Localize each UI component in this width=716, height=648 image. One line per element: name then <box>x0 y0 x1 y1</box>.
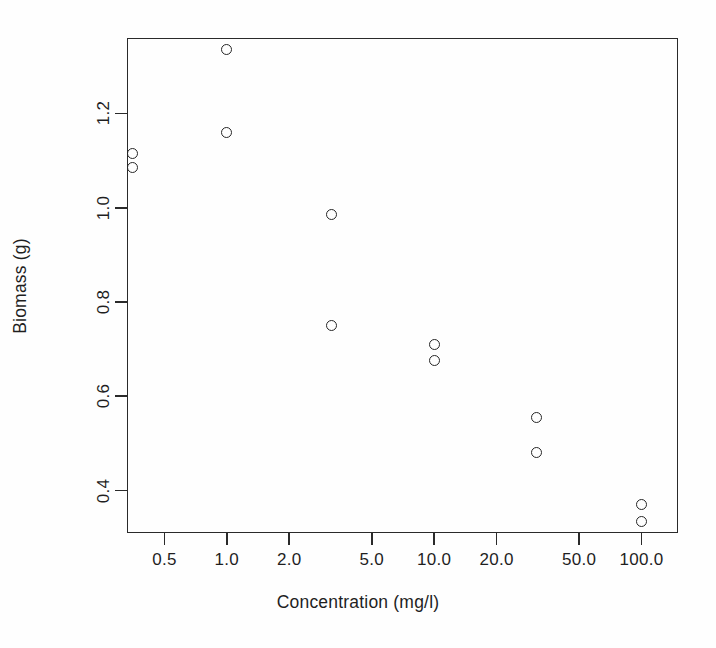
x-tick-label: 0.5 <box>152 550 177 570</box>
scatter-plot-figure: 0.51.02.05.010.020.050.0100.0 0.40.60.81… <box>0 0 716 648</box>
data-point <box>221 44 232 55</box>
data-point <box>127 148 138 159</box>
y-tick-mark <box>115 395 127 397</box>
x-tick-mark <box>496 533 498 545</box>
x-tick-label: 100.0 <box>619 550 663 570</box>
y-tick-mark <box>115 113 127 115</box>
data-point <box>429 339 440 350</box>
x-tick-label: 20.0 <box>479 550 513 570</box>
x-tick-mark <box>641 533 643 545</box>
x-tick-label: 2.0 <box>277 550 302 570</box>
y-tick-label: 1.0 <box>94 195 114 220</box>
data-point <box>429 355 440 366</box>
data-point <box>326 320 337 331</box>
x-tick-label: 5.0 <box>359 550 384 570</box>
y-tick-mark <box>115 490 127 492</box>
x-tick-label: 10.0 <box>417 550 451 570</box>
data-point <box>531 412 542 423</box>
data-point <box>636 516 647 527</box>
data-point <box>636 499 647 510</box>
y-tick-label: 0.4 <box>94 478 114 503</box>
data-point <box>221 127 232 138</box>
x-tick-mark <box>433 533 435 545</box>
y-axis-title: Biomass (g) <box>10 238 31 334</box>
data-point <box>127 162 138 173</box>
x-axis-title: Concentration (mg/l) <box>0 592 716 613</box>
y-tick-label: 0.8 <box>94 290 114 315</box>
x-tick-mark <box>164 533 166 545</box>
y-tick-label: 1.2 <box>94 101 114 126</box>
x-tick-mark <box>288 533 290 545</box>
data-point <box>531 447 542 458</box>
x-tick-mark <box>226 533 228 545</box>
y-tick-label: 0.6 <box>94 384 114 409</box>
x-tick-mark <box>578 533 580 545</box>
x-tick-label: 50.0 <box>562 550 596 570</box>
plot-data-area <box>127 38 678 533</box>
x-tick-mark <box>371 533 373 545</box>
data-point <box>326 209 337 220</box>
y-tick-mark <box>115 207 127 209</box>
y-tick-mark <box>115 301 127 303</box>
x-tick-label: 1.0 <box>215 550 240 570</box>
